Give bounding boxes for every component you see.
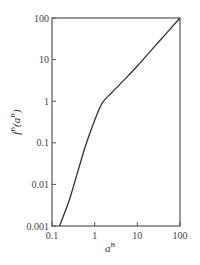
svg-text:1: 1 [92,230,97,241]
svg-text:0.1: 0.1 [37,137,50,148]
svg-text:100: 100 [34,13,49,24]
chart: 0.1110100 0.0010.010.1110100 aB fB(aB) [0,0,200,265]
y-axis-label: fB(aB) [9,109,23,135]
svg-text:0.01: 0.01 [32,179,50,190]
x-axis-label: aB [105,241,116,254]
svg-text:10: 10 [132,230,142,241]
data-line [60,18,181,226]
svg-text:1: 1 [44,96,49,107]
svg-text:0.1: 0.1 [46,230,59,241]
svg-text:10: 10 [39,54,49,65]
x-axis-ticks: 0.1110100 [46,222,188,241]
svg-text:100: 100 [173,230,188,241]
svg-text:0.001: 0.001 [27,221,50,232]
